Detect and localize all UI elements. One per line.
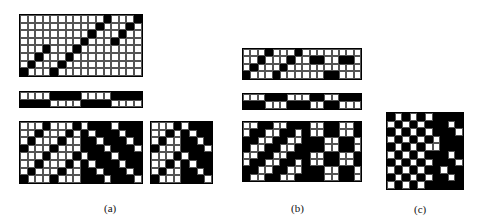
grid-cell: [197, 175, 205, 183]
grid-cell: [66, 30, 74, 38]
grid-cell: [66, 45, 74, 53]
grid-cell: [280, 166, 287, 173]
grid-cell: [317, 94, 324, 101]
grid-cell: [58, 30, 66, 38]
grid-cell: [354, 166, 361, 173]
grid-cell: [339, 49, 346, 56]
grid-cell: [395, 143, 403, 151]
grid-cell: [273, 94, 280, 101]
grid-cell: [28, 122, 36, 130]
grid-cell: [339, 64, 346, 71]
grid-cell: [280, 56, 287, 63]
grid-cell: [119, 100, 127, 108]
grid-cell: [111, 160, 119, 168]
grid-cell: [287, 64, 294, 71]
grid-cell: [73, 160, 81, 168]
grid-cell: [174, 130, 182, 138]
grid-cell: [174, 145, 182, 153]
grid-cell: [104, 137, 112, 145]
grid-cell: [287, 166, 294, 173]
grid-cell: [58, 68, 66, 76]
grid-cell: [181, 175, 189, 183]
grid-cell: [126, 137, 134, 145]
grid-cell: [346, 137, 353, 144]
grid-a-bottom: [19, 121, 143, 184]
grid-cell: [111, 15, 119, 23]
grid-cell: [126, 160, 134, 168]
grid-cell: [265, 137, 272, 144]
grid-cell: [410, 143, 418, 151]
grid-cell: [346, 144, 353, 151]
grid-cell: [111, 45, 119, 53]
grid-cell: [159, 175, 167, 183]
grid-cell: [96, 130, 104, 138]
grid-cell: [20, 160, 28, 168]
grid-cell: [166, 145, 174, 153]
grid-cell: [134, 23, 142, 31]
grid-cell: [287, 101, 294, 108]
grid-cell: [317, 144, 324, 151]
grid-cell: [387, 113, 395, 121]
grid-cell: [96, 15, 104, 23]
grid-cell: [134, 152, 142, 160]
grid-cell: [104, 45, 112, 53]
grid-cell: [126, 45, 134, 53]
grid-cell: [354, 56, 361, 63]
grid-cell: [73, 53, 81, 61]
grid-cell: [302, 174, 309, 181]
grid-cell: [73, 92, 81, 100]
grid-cell: [50, 38, 58, 46]
grid-cell: [440, 181, 448, 189]
grid-cell: [189, 130, 197, 138]
grid-cell: [126, 130, 134, 138]
grid-cell: [104, 145, 112, 153]
grid-cell: [346, 166, 353, 173]
grid-cell: [440, 151, 448, 159]
grid-cell: [151, 145, 159, 153]
grid-cell: [96, 68, 104, 76]
grid-cell: [88, 45, 96, 53]
grid-cell: [134, 53, 142, 61]
grid-cell: [425, 143, 433, 151]
grid-cell: [197, 145, 205, 153]
grid-cell: [273, 166, 280, 173]
grid-cell: [166, 175, 174, 183]
grid-cell: [354, 152, 361, 159]
grid-cell: [134, 68, 142, 76]
grid-cell: [151, 160, 159, 168]
grid-cell: [402, 143, 410, 151]
grid-cell: [317, 174, 324, 181]
grid-cell: [448, 166, 456, 174]
grid-cell: [243, 71, 250, 78]
grid-cell: [43, 30, 51, 38]
grid-cell: [310, 49, 317, 56]
grid-cell: [295, 56, 302, 63]
grid-cell: [96, 122, 104, 130]
grid-cell: [317, 56, 324, 63]
grid-cell: [448, 136, 456, 144]
grid-cell: [197, 130, 205, 138]
grid-cell: [151, 168, 159, 176]
grid-cell: [35, 152, 43, 160]
grid-cell: [197, 160, 205, 168]
grid-cell: [119, 68, 127, 76]
grid-b-bottom: [242, 121, 362, 182]
grid-cell: [88, 100, 96, 108]
grid-cell: [134, 92, 142, 100]
grid-cell: [50, 53, 58, 61]
grid-cell: [402, 166, 410, 174]
grid-cell: [134, 122, 142, 130]
grid-cell: [258, 56, 265, 63]
grid-cell: [455, 166, 463, 174]
grid-cell: [395, 136, 403, 144]
grid-cell: [310, 71, 317, 78]
grid-cell: [81, 15, 89, 23]
grid-cell: [43, 38, 51, 46]
grid-cell: [250, 174, 257, 181]
grid-cell: [265, 129, 272, 136]
grid-cell: [250, 56, 257, 63]
grid-cell: [258, 137, 265, 144]
grid-cell: [243, 129, 250, 136]
grid-cell: [324, 174, 331, 181]
grid-cell: [73, 61, 81, 69]
